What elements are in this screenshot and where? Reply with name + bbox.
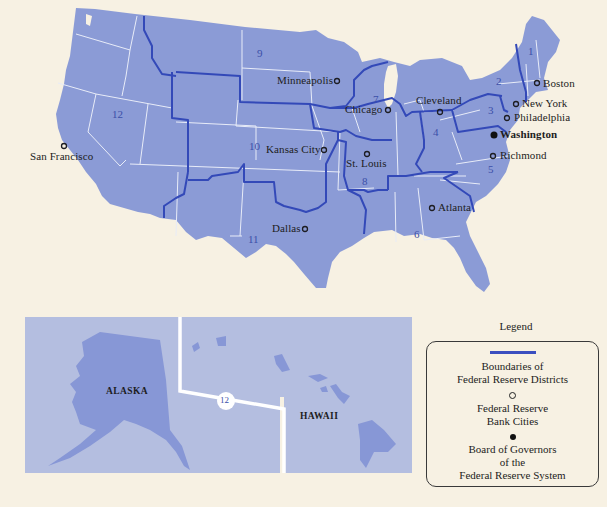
open-circle-icon: [509, 392, 516, 399]
city-label-new-york: New York: [522, 98, 567, 109]
city-label-cleveland: Cleveland: [416, 95, 462, 106]
washington-marker-icon: [491, 132, 498, 139]
legend-boundary-text-2: Federal Reserve Districts: [427, 373, 598, 386]
city-label-dallas: Dallas: [272, 223, 301, 234]
dallas-marker-icon: [303, 227, 308, 232]
san-francisco-marker-icon: [62, 144, 67, 149]
city-label-minneapolis: Minneapolis: [277, 75, 333, 86]
cleveland-marker-icon: [438, 110, 443, 115]
philadelphia-marker-icon: [505, 116, 510, 121]
city-label-richmond: Richmond: [500, 150, 547, 161]
richmond-marker-icon: [491, 154, 496, 159]
inset-district-badge: 12: [220, 396, 229, 405]
city-label-san-francisco: San Francisco: [30, 151, 93, 162]
legend-board-text-1: Board of Governors: [427, 443, 598, 456]
kansas-city-marker-icon: [322, 148, 327, 153]
city-label-philadelphia: Philadelphia: [514, 112, 570, 123]
city-label-washington: Washington: [500, 129, 557, 140]
city-label-atlanta: Atlanta: [438, 202, 471, 213]
legend-board-text-2: of the: [427, 456, 598, 469]
chicago-marker-icon: [386, 108, 391, 113]
hawaii-inset-upper: [180, 317, 412, 397]
atlanta-marker-icon: [430, 206, 435, 211]
legend-box: Boundaries of Federal Reserve Districts …: [426, 341, 599, 487]
new-york-marker-icon: [514, 102, 519, 107]
city-label-st-louis: St. Louis: [346, 158, 387, 169]
boston-marker-icon: [535, 81, 540, 86]
legend-board-text-3: Federal Reserve System: [427, 469, 598, 482]
city-label-boston: Boston: [543, 78, 575, 89]
legend-boundary-text-1: Boundaries of: [427, 360, 598, 373]
legend-bank-text-2: Bank Cities: [427, 415, 598, 428]
hawaii-label: HAWAII: [300, 411, 338, 421]
st-louis-marker-icon: [365, 152, 370, 157]
solid-circle-icon: [510, 434, 516, 440]
legend-title: Legend: [426, 320, 606, 332]
boundary-line-icon: [490, 351, 536, 354]
minneapolis-marker-icon: [335, 79, 340, 84]
city-label-kansas-city: Kansas City: [266, 144, 321, 155]
alaska-label: ALASKA: [106, 386, 148, 396]
city-label-chicago: Chicago: [345, 104, 382, 115]
inset-bottom-gap: [0, 473, 420, 507]
legend-bank-text-1: Federal Reserve: [427, 402, 598, 415]
